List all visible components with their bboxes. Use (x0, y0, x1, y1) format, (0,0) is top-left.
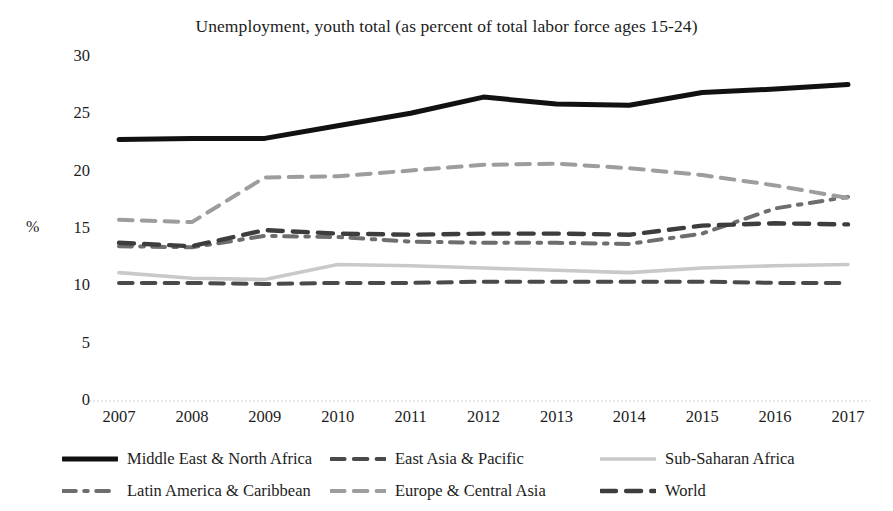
series-line (119, 85, 848, 140)
y-axis-title: % (26, 218, 39, 236)
x-tick-label: 2015 (667, 409, 737, 426)
x-tick-label: 2010 (303, 409, 373, 426)
x-tick-label: 2009 (230, 409, 300, 426)
x-tick-label: 2008 (157, 409, 227, 426)
legend-swatch (600, 483, 656, 499)
x-tick-label: 2016 (740, 409, 810, 426)
x-tick-label: 2011 (376, 409, 446, 426)
legend-label: Europe & Central Asia (395, 481, 546, 501)
legend-label: East Asia & Pacific (395, 449, 524, 469)
plot-area: % 051015202530 2007200820092010201120122… (0, 0, 893, 430)
legend-row: Latin America & CaribbeanEurope & Centra… (0, 476, 893, 506)
legend-item[interactable]: World (600, 478, 706, 504)
legend-label: Latin America & Caribbean (127, 481, 311, 501)
legend-label: Sub-Saharan Africa (665, 449, 795, 469)
legend-item[interactable]: Sub-Saharan Africa (600, 446, 795, 472)
legend-swatch (330, 451, 386, 467)
x-tick-label: 2007 (84, 409, 154, 426)
series-line (119, 265, 848, 280)
legend-item[interactable]: East Asia & Pacific (330, 446, 524, 472)
y-tick-label: 5 (46, 335, 90, 352)
legend-swatch (600, 451, 656, 467)
legend-label: World (665, 481, 706, 501)
legend-item[interactable]: Europe & Central Asia (330, 478, 546, 504)
y-tick-label: 20 (46, 163, 90, 180)
x-tick-label: 2017 (813, 409, 883, 426)
series-line (119, 282, 848, 284)
x-tick-label: 2012 (449, 409, 519, 426)
y-tick-label: 30 (46, 48, 90, 65)
y-tick-label: 0 (46, 392, 90, 409)
chart-container: Unemployment, youth total (as percent of… (0, 0, 893, 511)
series-line (119, 164, 848, 223)
legend-item[interactable]: Middle East & North Africa (62, 446, 312, 472)
chart-legend: Middle East & North AfricaEast Asia & Pa… (0, 438, 893, 511)
legend-row: Middle East & North AfricaEast Asia & Pa… (0, 444, 893, 474)
x-tick-label: 2014 (594, 409, 664, 426)
plot-lines (0, 0, 893, 430)
x-tick-label: 2013 (521, 409, 591, 426)
legend-swatch (62, 451, 118, 467)
y-tick-label: 10 (46, 277, 90, 294)
legend-label: Middle East & North Africa (127, 449, 312, 469)
legend-swatch (62, 483, 118, 499)
legend-item[interactable]: Latin America & Caribbean (62, 478, 311, 504)
y-tick-label: 25 (46, 105, 90, 122)
y-tick-label: 15 (46, 220, 90, 237)
legend-swatch (330, 483, 386, 499)
